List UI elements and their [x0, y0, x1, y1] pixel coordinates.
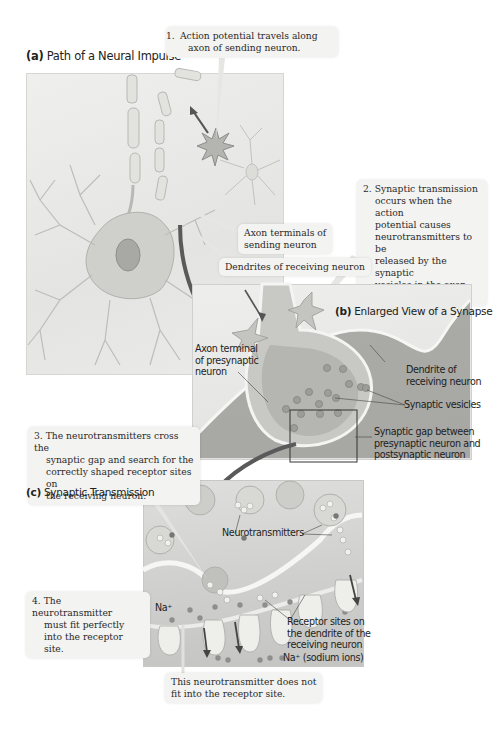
- label-neurotransmitters: Neurotransmitters: [222, 527, 304, 539]
- callout-step-4: 4. The neurotransmitter must fit perfect…: [26, 592, 150, 658]
- panel-c-letter: (c): [26, 486, 41, 498]
- panel-c-title: (c) Synaptic Transmission: [26, 486, 154, 498]
- callout-no-fit: This neurotransmitter does not fit into …: [165, 673, 322, 703]
- panel-c-title-text: Synaptic Transmission: [44, 486, 154, 498]
- label-receptor-sites: Receptor sites on the dendrite of the re…: [287, 616, 371, 651]
- label-sodium-ions: Na⁺ (sodium ions): [283, 652, 363, 664]
- label-na-plus: Na⁺: [155, 602, 172, 614]
